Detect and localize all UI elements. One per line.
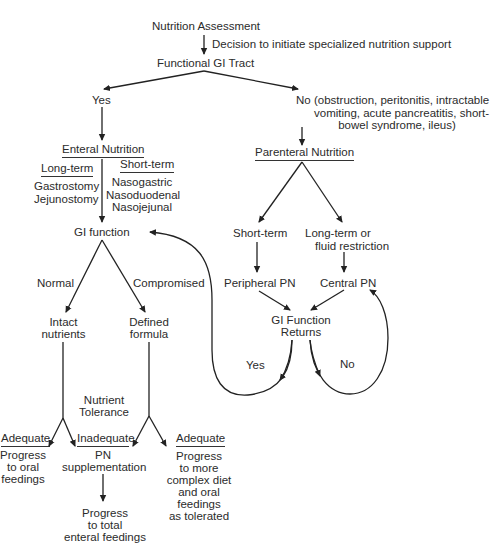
list-item: Nasoduodenal: [106, 189, 178, 202]
enteral-long-term-label: Long-term: [41, 162, 93, 177]
no-reasons: (obstruction, peritonitis, intractable v…: [314, 94, 480, 132]
central-pn-node: Central PN: [320, 277, 376, 289]
node-line: Progress: [0, 449, 46, 461]
node-line: Nutrient: [78, 394, 130, 406]
progress-oral-node: Progress to oral feedings: [0, 449, 46, 485]
node-line: Long-term or: [305, 227, 389, 240]
enteral-short-term-label: Short-term: [120, 158, 174, 173]
list-item: Jejunostomy: [34, 193, 99, 206]
enteral-nutrition-node: Enteral Nutrition: [62, 143, 144, 158]
list-item: Nasojejunal: [106, 201, 178, 214]
node-line: to oral: [0, 461, 46, 473]
intact-nutrients-node: Intact nutrients: [36, 316, 91, 340]
node-line: Tolerance: [78, 406, 130, 418]
node-line: Progress: [64, 507, 146, 519]
progress-total-enteral-node: Progress to total enteral feedings: [64, 507, 146, 543]
enteral-long-term-list: Gastrostomy Jejunostomy: [34, 180, 99, 205]
pn-short-term-label: Short-term: [233, 227, 287, 239]
node-line: Returns: [270, 326, 332, 338]
inadequate-label: Inadequate: [77, 432, 129, 447]
node-line: nutrients: [36, 328, 91, 340]
node-line: complex diet: [166, 474, 232, 486]
node-line: enteral feedings: [64, 531, 146, 543]
reason-line: (obstruction, peritonitis, intractable: [314, 94, 480, 107]
node-line: GI Function: [270, 314, 332, 326]
progress-complex-diet-node: Progress to more complex diet and oral f…: [166, 450, 232, 522]
node-line: Progress: [166, 450, 232, 462]
pn-supplementation-node: PN supplementation: [62, 449, 144, 473]
nutrient-tolerance-label: Nutrient Tolerance: [78, 394, 130, 418]
node-line: feedings: [0, 473, 46, 485]
reason-line: bowel syndrome, ileus): [314, 119, 480, 132]
yes-branch-label: Yes: [92, 94, 111, 106]
adequate-right-label: Adequate: [176, 432, 225, 447]
node-line: PN: [62, 449, 144, 461]
nutrition-assessment-node: Nutrition Assessment: [152, 20, 260, 32]
enteral-short-term-list: Nasogastric Nasoduodenal Nasojejunal: [106, 176, 178, 214]
reason-line: vomiting, acute pancreatitis, short-: [314, 107, 480, 120]
normal-label: Normal: [37, 277, 74, 289]
node-line: as tolerated: [166, 510, 232, 522]
node-line: fluid restriction: [305, 240, 389, 253]
no-branch-label: No: [296, 94, 311, 106]
node-line: to more: [166, 462, 232, 474]
functional-gi-tract-node: Functional GI Tract: [157, 57, 254, 69]
pn-long-term-label: Long-term or fluid restriction: [305, 227, 389, 252]
list-item: Nasogastric: [106, 176, 178, 189]
node-line: and oral: [166, 486, 232, 498]
gi-function-returns-node: GI Function Returns: [270, 314, 332, 338]
node-line: Defined: [122, 316, 176, 328]
pn-no-label: No: [340, 358, 355, 370]
node-line: Intact: [36, 316, 91, 328]
peripheral-pn-node: Peripheral PN: [224, 277, 296, 289]
list-item: Gastrostomy: [34, 180, 99, 193]
adequate-left-label: Adequate: [1, 432, 50, 447]
compromised-label: Compromised: [133, 277, 205, 289]
gi-function-node: GI function: [74, 226, 130, 238]
defined-formula-node: Defined formula: [122, 316, 176, 340]
decision-label: Decision to initiate specialized nutriti…: [212, 38, 451, 50]
pn-yes-label: Yes: [246, 359, 265, 371]
node-line: feedings: [166, 498, 232, 510]
parenteral-nutrition-node: Parenteral Nutrition: [255, 146, 354, 161]
node-line: formula: [122, 328, 176, 340]
node-line: supplementation: [62, 461, 144, 473]
node-line: to total: [64, 519, 146, 531]
